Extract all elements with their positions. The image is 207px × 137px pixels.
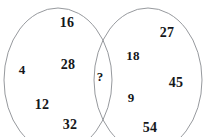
left-only-value-5: 32 <box>63 118 77 132</box>
left-only-value-1: 16 <box>60 16 74 30</box>
venn-diagram-figure: 16 4 28 12 32 ? 27 18 45 9 54 <box>0 0 207 137</box>
left-only-value-4: 12 <box>35 98 49 112</box>
right-only-value-5: 54 <box>143 121 157 135</box>
right-only-value-1: 27 <box>160 26 174 40</box>
left-only-value-3: 28 <box>61 58 75 72</box>
left-only-value-2: 4 <box>19 63 26 76</box>
right-only-value-4: 9 <box>128 91 135 104</box>
venn-circles-svg <box>0 0 207 137</box>
right-only-value-2: 18 <box>126 49 139 62</box>
intersection-unknown-value: ? <box>97 70 104 83</box>
right-set-ellipse <box>94 8 202 137</box>
right-only-value-3: 45 <box>169 76 183 90</box>
